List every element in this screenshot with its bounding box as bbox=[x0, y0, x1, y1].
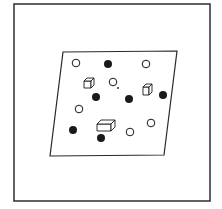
filled-circle bbox=[92, 93, 100, 101]
filled-circle bbox=[69, 126, 77, 134]
cubes-group bbox=[84, 78, 152, 131]
filled-circle bbox=[159, 91, 167, 99]
open-circle bbox=[147, 119, 155, 127]
open-circle bbox=[72, 59, 80, 67]
filled-circle bbox=[97, 134, 105, 142]
diagram-figure bbox=[0, 0, 222, 209]
filled-circle bbox=[104, 60, 112, 68]
open-circle bbox=[109, 78, 117, 86]
filled-circles-group bbox=[69, 60, 167, 142]
parallelogram-plane bbox=[50, 51, 177, 156]
open-circle bbox=[142, 60, 150, 68]
outer-frame bbox=[14, 4, 210, 201]
open-circle bbox=[126, 128, 134, 136]
open-circle bbox=[75, 105, 83, 113]
cube-icon bbox=[84, 78, 94, 88]
filled-circle bbox=[125, 95, 133, 103]
cube-icon bbox=[143, 84, 152, 95]
cube-icon bbox=[97, 120, 115, 131]
small-dot bbox=[117, 87, 119, 89]
